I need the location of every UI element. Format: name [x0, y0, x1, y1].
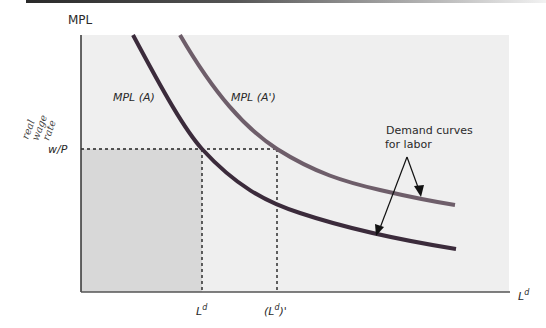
y-axis-title: MPL — [68, 13, 93, 27]
shaded-region — [81, 149, 202, 292]
label-mpl-a-prime: MPL (A') — [231, 91, 276, 104]
handwritten-annotation: real wage rate — [20, 110, 59, 148]
legend-line-2: for labor — [385, 138, 432, 151]
legend-line-1: Demand curves — [386, 124, 473, 137]
x-axis-title: Ld — [518, 288, 530, 303]
x-tick-ld: Ld — [196, 303, 208, 318]
labor-demand-chart: MPL real wage rate w/P MPL (A) MPL (A') … — [0, 0, 546, 328]
x-tick-ld-prime: (Ld)' — [264, 303, 287, 318]
y-tick-wp: w/P — [48, 143, 68, 156]
label-mpl-a: MPL (A) — [113, 91, 155, 104]
